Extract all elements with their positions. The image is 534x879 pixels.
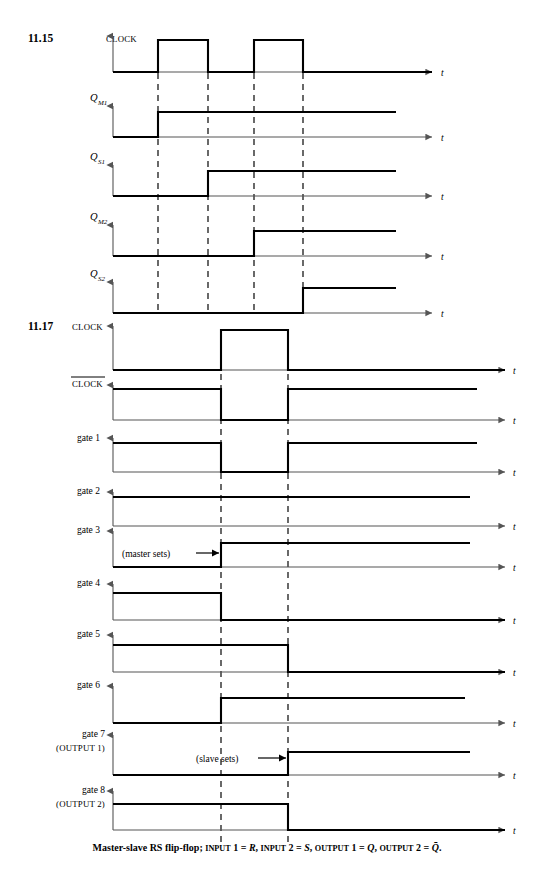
- caption-sc-1: INPUT: [261, 844, 287, 853]
- signal-row-q-s2: QS2t: [90, 268, 444, 319]
- signal-row-gate-7: gate 7(OUTPUT 1)t(slave sets): [56, 729, 516, 781]
- time-axis-label-gate-5: t: [513, 668, 516, 678]
- signal-sublabel-gate-7: (OUTPUT 1): [56, 743, 105, 753]
- waveform-gate-1: [113, 443, 477, 472]
- signal-label-gate-6: gate 6: [77, 680, 100, 690]
- time-axis-label-gate-7: t: [513, 771, 516, 781]
- signal-row-q-m2: QM2t: [90, 211, 444, 262]
- signal-label-gate-5: gate 5: [77, 629, 100, 639]
- time-axis-label-q-m1: t: [441, 133, 444, 143]
- figure-caption: Master-slave RS flip-flop; INPUT 1 = R, …: [93, 842, 442, 853]
- signal-row-gate-3: gate 3t(master sets): [77, 525, 516, 573]
- waveform-clock: [113, 40, 432, 72]
- signal-row-q-m1: QM1t: [90, 92, 444, 143]
- signal-row-clock: CLOCKt: [106, 34, 444, 78]
- signal-label-clock: CLOCK: [72, 322, 103, 332]
- signal-label-gate-7: gate 7: [82, 729, 105, 739]
- signal-label-q-s2: Q: [90, 268, 98, 279]
- caption-sc-0: INPUT: [205, 844, 231, 853]
- time-axis-label-gate-6: t: [513, 719, 516, 729]
- caption-rest-1: 2 =: [286, 842, 304, 853]
- time-axis-label-clock-bar: t: [513, 416, 516, 426]
- signal-row-gate-8: gate 8(OUTPUT 2)t: [56, 785, 516, 836]
- timing-diagram-page: 11.15CLOCKtQM1tQS1tQM2tQS2t11.17CLOCKtCL…: [0, 0, 534, 879]
- caption-sc-2: OUTPUT: [315, 844, 350, 853]
- figure-number: 11.15: [28, 32, 53, 44]
- waveform-q-m2: [113, 231, 396, 256]
- caption-var-3: Q̄: [432, 842, 439, 853]
- caption-sc-3: OUTPUT: [379, 844, 414, 853]
- time-axis-label-gate-2: t: [513, 522, 516, 532]
- waveform-gate-8: [113, 804, 505, 830]
- signal-row-gate-1: gate 1t: [77, 433, 516, 478]
- waveform-gate-4: [113, 593, 505, 620]
- signal-label-gate-1: gate 1: [77, 433, 100, 443]
- signal-label-sub-q-m1: M1: [97, 99, 107, 107]
- signal-row-gate-5: gate 5t: [77, 629, 516, 678]
- signal-label-gate-4: gate 4: [77, 578, 100, 588]
- signal-row-gate-6: gate 6t: [77, 680, 516, 729]
- time-axis-label-q-s2: t: [441, 309, 444, 319]
- waveform-clock: [113, 330, 505, 370]
- waveform-canvas: 11.15CLOCKtQM1tQS1tQM2tQS2t11.17CLOCKtCL…: [0, 0, 534, 879]
- signal-label-gate-8: gate 8: [82, 785, 105, 795]
- signal-label-gate-3: gate 3: [77, 525, 100, 535]
- signal-label-clock: CLOCK: [106, 34, 137, 44]
- time-axis-label-q-m2: t: [441, 252, 444, 262]
- signal-label-clock-bar: CLOCK: [72, 379, 103, 389]
- signal-row-gate-4: gate 4t: [77, 578, 516, 626]
- waveform-gate-7: [113, 752, 470, 775]
- caption-rest-2: 1 =: [349, 842, 367, 853]
- signal-sublabel-gate-8: (OUTPUT 2): [56, 799, 105, 809]
- caption-prefix: Master-slave RS flip-flop;: [93, 842, 206, 853]
- signal-row-clock: CLOCKt: [72, 322, 516, 376]
- time-axis-label-gate-1: t: [513, 468, 516, 478]
- figure-number: 11.17: [28, 320, 53, 332]
- signal-label-q-m2: Q: [90, 211, 98, 222]
- caption-var-2: Q: [367, 842, 374, 853]
- signal-label-sub-q-s2: S2: [98, 275, 106, 283]
- fig-11-15: 11.15CLOCKtQM1tQS1tQM2tQS2t: [28, 32, 444, 319]
- annotation-text-gate-7: (slave sets): [196, 754, 238, 765]
- time-axis-label-clock: t: [441, 68, 444, 78]
- caption-rest-0: 1 =: [231, 842, 249, 853]
- signal-label-sub-q-m2: M2: [97, 218, 108, 226]
- signal-label-gate-2: gate 2: [77, 486, 100, 496]
- annotation-text-gate-3: (master sets): [122, 549, 170, 560]
- signal-row-gate-2: gate 2t: [77, 486, 516, 532]
- waveform-gate-6: [113, 698, 465, 723]
- signal-row-clock-bar: CLOCKt: [71, 377, 516, 426]
- time-axis-label-gate-4: t: [513, 616, 516, 626]
- fig-11-17: 11.17CLOCKtCLOCKtgate 1tgate 2tgate 3t(m…: [28, 320, 516, 845]
- time-axis-label-q-s1: t: [441, 192, 444, 202]
- caption-rest-3: 2 =: [414, 842, 432, 853]
- signal-row-q-s1: QS1t: [90, 151, 444, 202]
- signal-label-sub-q-s1: S1: [98, 158, 105, 166]
- waveform-clock-bar: [113, 389, 477, 420]
- signal-label-q-s1: Q: [90, 151, 98, 162]
- signal-label-q-m1: Q: [90, 92, 98, 103]
- time-axis-label-clock: t: [513, 366, 516, 376]
- waveform-gate-5: [113, 645, 505, 672]
- time-axis-label-gate-8: t: [513, 826, 516, 836]
- time-axis-label-gate-3: t: [513, 563, 516, 573]
- caption-tail-3: .: [439, 842, 442, 853]
